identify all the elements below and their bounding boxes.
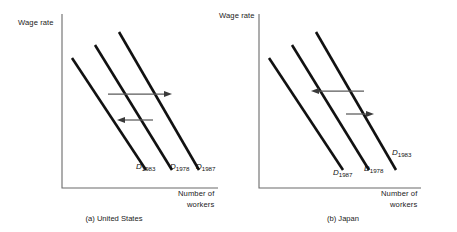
x-axis-label-line1: Number of — [381, 189, 417, 198]
panel-caption-japan: (b) Japan — [229, 214, 457, 223]
panel-japan: Wage rate Number of workers D1987 D1978 … — [229, 0, 457, 232]
curve-symbol: D — [170, 162, 176, 171]
leftward-shift-arrow-head — [311, 88, 319, 94]
axes-lines — [259, 14, 421, 188]
curve-label-1983: D1983 — [392, 148, 411, 157]
panel-caption-united-states: (a) United States — [0, 214, 228, 223]
curve-year: 1978 — [176, 165, 190, 172]
curve-label-1987: D1987 — [196, 162, 215, 171]
y-axis-label: Wage rate — [18, 18, 54, 29]
rightward-shift-arrow-head — [164, 91, 172, 97]
y-axis-label: Wage rate — [219, 11, 255, 22]
x-axis-label-line2: workers — [381, 200, 417, 211]
curve-label-1978: D1978 — [170, 162, 189, 171]
curve-label-1978: D1978 — [364, 164, 383, 173]
x-axis-label-line1: Number of — [178, 189, 214, 198]
curve-year: 1983 — [398, 151, 412, 158]
curve-label-1983: D1983 — [136, 162, 155, 171]
curve-year: 1987 — [339, 171, 353, 178]
curve-symbol: D — [364, 164, 370, 173]
demand-curve-1987 — [269, 58, 343, 170]
curve-year: 1983 — [142, 165, 156, 172]
curve-symbol: D — [196, 162, 202, 171]
rightward-shift-arrow-head — [366, 111, 374, 117]
demand-curve-1983 — [72, 58, 146, 170]
leftward-shift-arrow-head — [117, 117, 125, 123]
curve-label-1987: D1987 — [333, 168, 352, 177]
curve-symbol: D — [392, 148, 398, 157]
labor-demand-figure: Wage rate Number of workers D1983 D1978 … — [0, 0, 457, 232]
panel-united-states: Wage rate Number of workers D1983 D1978 … — [0, 0, 228, 232]
curve-symbol: D — [333, 168, 339, 177]
curve-symbol: D — [136, 162, 142, 171]
x-axis-label: Number of workers — [381, 189, 441, 210]
curve-year: 1978 — [370, 167, 384, 174]
x-axis-label-line2: workers — [178, 200, 214, 211]
curve-year: 1987 — [202, 165, 216, 172]
